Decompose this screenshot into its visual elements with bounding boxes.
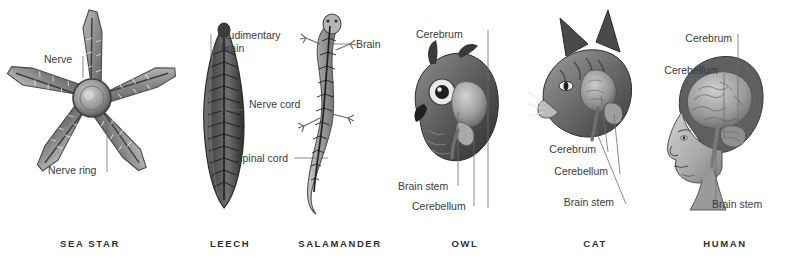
sea-star-leader-lines [0,0,180,232]
label-cat-cerebrum: Cerebrum [524,143,596,156]
panel-leech: Rudimentary brain Nerve cord LEECH [180,0,280,258]
label-human-brain-stem: Brain stem [712,198,762,211]
label-human-cerebellum: Cerebellum [646,64,718,77]
label-owl-brain-stem: Brain stem [398,180,448,193]
panel-cat: Cerebrum Cerebellum Brain stem CAT [530,0,660,258]
label-salamander-brain: Brain [356,38,381,51]
panel-salamander: Brain Spinal cord SALAMANDER [280,0,400,258]
label-human-cerebrum: Cerebrum [660,32,732,45]
panel-human: Cerebrum Cerebellum Brain stem HUMAN [660,0,790,258]
label-salamander-spinal-cord: Spinal cord [214,152,288,165]
comparative-nervous-system-figure: Nerve Nerve ring SEA STAR [0,0,790,258]
label-owl-cerebellum: Cerebellum [412,200,466,213]
label-cat-cerebellum: Cerebellum [524,165,608,178]
caption-leech: LEECH [180,238,280,249]
caption-sea-star: SEA STAR [0,238,180,249]
panel-owl: Cerebrum Brain stem Cerebellum OWL [400,0,530,258]
caption-owl: OWL [400,238,530,249]
salamander-leader-lines [280,0,400,232]
panel-sea-star: Nerve Nerve ring SEA STAR [0,0,180,258]
caption-salamander: SALAMANDER [280,238,400,249]
caption-cat: CAT [530,238,660,249]
label-owl-cerebrum: Cerebrum [416,28,463,41]
label-sea-star-nerve-ring: Nerve ring [48,164,96,177]
label-sea-star-nerve: Nerve [44,53,72,66]
label-cat-brain-stem: Brain stem [524,196,614,209]
caption-human: HUMAN [660,238,790,249]
